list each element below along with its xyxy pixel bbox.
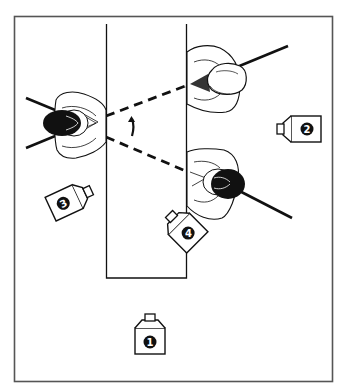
diagram-canvas: 1 2 3 4 — [0, 0, 343, 391]
actor-right-top — [186, 46, 288, 113]
actor-left-hair — [43, 110, 81, 136]
actor-left — [26, 92, 106, 158]
sightline-lower — [106, 137, 188, 172]
camera-2-label: 2 — [304, 124, 311, 135]
camera-1-label: 1 — [147, 337, 154, 348]
actor-right-bottom — [187, 149, 292, 220]
camera-1-icon: 1 — [135, 314, 165, 354]
camera-4-label: 4 — [185, 228, 192, 239]
camera-2-icon: 2 — [277, 116, 321, 142]
actor-right-bottom-hair — [211, 169, 245, 199]
head-turn-arrow-icon — [128, 116, 135, 136]
sightlines — [106, 85, 188, 172]
sightline-upper — [106, 85, 188, 116]
floor-plan: 1 2 3 4 — [0, 0, 343, 391]
camera-3-icon: 3 — [45, 178, 97, 221]
